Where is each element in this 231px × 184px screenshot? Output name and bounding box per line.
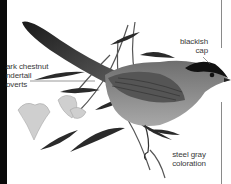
label-line: cap — [170, 46, 208, 55]
flowers — [18, 95, 86, 140]
label-line: blackish — [170, 37, 208, 46]
label-line: steel gray — [168, 150, 210, 159]
label-line: ndertail — [6, 71, 48, 80]
label-undertail-coverts: ark chestnut ndertail overts — [6, 62, 48, 89]
label-line: coloration — [168, 159, 210, 168]
bird-feet — [144, 125, 148, 160]
label-blackish-cap: blackish cap — [170, 37, 208, 55]
label-line: ark chestnut — [6, 62, 48, 71]
label-steel-gray-coloration: steel gray coloration — [168, 150, 210, 168]
label-line: overts — [6, 80, 48, 89]
bird-eye — [210, 73, 215, 78]
